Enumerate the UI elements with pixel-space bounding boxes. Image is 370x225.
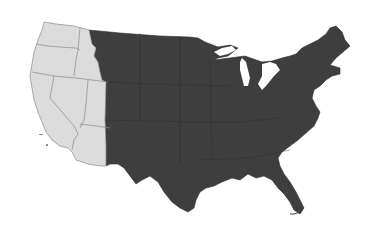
us-map: Contiguous United States - western state… [0,0,370,225]
us-map-svg [0,0,370,225]
